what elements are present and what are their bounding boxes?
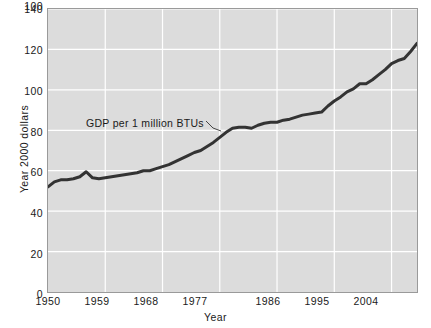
chart-figure: 140 120 100 100 80 60 40 20 0 1950 1959 … xyxy=(0,0,431,328)
plot-area xyxy=(47,8,418,293)
x-tick-label: 2004 xyxy=(336,295,396,307)
series-annotation-label: GDP per 1 million BTUs xyxy=(86,117,204,129)
series-line xyxy=(48,43,417,187)
y-tick-label: 100 xyxy=(0,0,43,12)
y-axis-title: Year 2000 dollars xyxy=(18,69,30,229)
series-layer xyxy=(48,43,417,187)
gridlines xyxy=(48,9,417,292)
x-tick-label: 1977 xyxy=(165,295,225,307)
x-axis-title: Year xyxy=(0,311,431,323)
y-tick-label: 120 xyxy=(0,44,43,56)
y-tick-label: 20 xyxy=(0,248,43,260)
plot-canvas xyxy=(48,9,417,292)
